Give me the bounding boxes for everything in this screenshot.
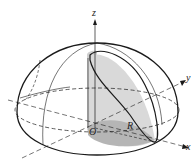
diagram-canvas xyxy=(0,0,195,163)
x-axis-label: x xyxy=(186,142,190,152)
hemisphere-diagram: z y x O R xyxy=(0,0,195,163)
z-axis-label: z xyxy=(92,8,96,18)
z-axis-arrow xyxy=(93,19,97,25)
radius-label: R xyxy=(127,121,133,131)
latitude-arc xyxy=(20,87,70,98)
hidden-meridian xyxy=(25,60,40,100)
y-axis-label: y xyxy=(186,73,190,83)
origin-label: O xyxy=(89,127,96,137)
